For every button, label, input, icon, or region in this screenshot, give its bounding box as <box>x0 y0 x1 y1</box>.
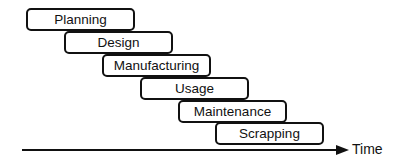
arrow-right-icon <box>336 145 349 155</box>
phase-usage: Usage <box>140 77 249 100</box>
phase-maintenance: Maintenance <box>178 100 287 123</box>
phase-scrapping: Scrapping <box>215 122 324 145</box>
time-axis-label: Time <box>352 141 383 157</box>
phase-design: Design <box>64 31 173 54</box>
time-axis-line <box>22 149 340 151</box>
phase-manufacturing: Manufacturing <box>102 54 211 77</box>
phase-planning: Planning <box>26 8 135 31</box>
